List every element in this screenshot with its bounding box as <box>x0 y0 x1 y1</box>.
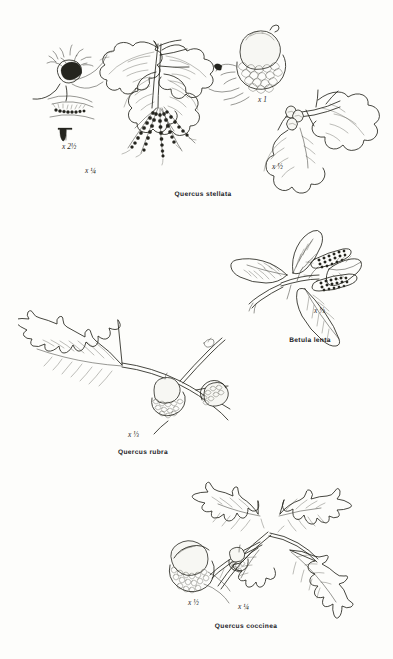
strobile-upper <box>311 249 351 268</box>
magnification-label-coccinea-acorn: x ½ <box>188 598 199 607</box>
botanical-plate: x 2½ x ¼ x 1 x ½ Quercus stellata x ⅓ Be… <box>0 0 393 659</box>
figure-leafy-twig-staminate-catkins <box>100 40 214 165</box>
species-caption-quercus-rubra: Quercus rubra <box>118 449 168 456</box>
magnification-label-coccinea-twig: x ¼ <box>238 602 249 611</box>
magnification-label-betula-twig: x ⅓ <box>314 306 325 315</box>
staminate-catkins <box>122 107 196 165</box>
magnification-label-stellata-twig: x ¼ <box>85 166 96 175</box>
figure-quercus-rubra-fruiting-twig <box>18 311 230 434</box>
figure-fruiting-twig-stellata <box>264 90 379 193</box>
panel-quercus-stellata-artwork <box>0 0 393 200</box>
panel-quercus-rubra-artwork <box>18 290 258 450</box>
figure-acorn-detail-stellata <box>209 25 286 105</box>
species-caption-quercus-stellata: Quercus stellata <box>175 191 232 198</box>
magnification-label-rubra-twig: x ⅓ <box>128 430 139 439</box>
species-caption-betula-lenta: Betula lenta <box>289 337 331 344</box>
magnification-label-stellata-flower: x 2½ <box>62 142 76 151</box>
magnification-label-stellata-fruiting-twig: x ½ <box>272 162 283 171</box>
figure-pistillate-flower-detail <box>33 45 112 141</box>
acorn-left <box>152 373 186 418</box>
acorn-coccinea-large <box>169 541 230 603</box>
twig-acorns <box>286 106 304 130</box>
species-caption-quercus-coccinea: Quercus coccinea <box>215 623 277 630</box>
magnification-label-stellata-acorn: x 1 <box>258 95 267 104</box>
stellate-hair-band <box>55 109 86 114</box>
acorn-right <box>200 381 228 407</box>
